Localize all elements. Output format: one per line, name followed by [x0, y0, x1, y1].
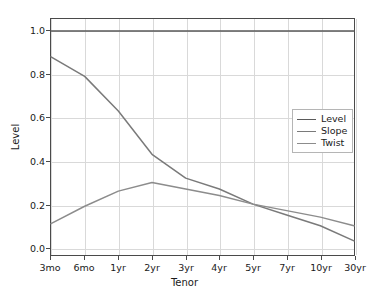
legend-swatch-level [297, 119, 316, 120]
y-tick-mark [46, 248, 50, 249]
x-tick-mark [84, 256, 85, 260]
x-tick-label: 3mo [39, 262, 60, 273]
x-tick-label: 5yr [245, 262, 261, 273]
legend-item-twist[interactable]: Twist [297, 137, 347, 149]
x-tick-mark [287, 256, 288, 260]
series-line-twist [51, 182, 354, 225]
legend-swatch-slope [297, 131, 316, 132]
x-tick-mark [118, 256, 119, 260]
x-tick-mark [186, 256, 187, 260]
y-tick-label: 0.4 [30, 156, 45, 167]
x-tick-mark [253, 256, 254, 260]
y-tick-label: 0.8 [30, 69, 45, 80]
y-tick-mark [46, 205, 50, 206]
y-tick-label: 1.0 [30, 25, 45, 36]
legend-swatch-twist [297, 143, 316, 144]
chart-figure: 0.00.20.40.60.81.0 3mo6mo1yr2yr3yr4yr5yr… [0, 0, 369, 298]
x-tick-label: 1yr [110, 262, 126, 273]
x-tick-mark [50, 256, 51, 260]
y-tick-mark [46, 161, 50, 162]
gridline-vertical [356, 19, 357, 255]
x-tick-mark [152, 256, 153, 260]
x-tick-label: 2yr [144, 262, 160, 273]
x-tick-label: 3yr [178, 262, 194, 273]
x-tick-label: 7yr [279, 262, 295, 273]
x-tick-mark [321, 256, 322, 260]
y-tick-label: 0.6 [30, 112, 45, 123]
x-axis-label: Tenor [0, 277, 369, 288]
x-tick-mark [355, 256, 356, 260]
y-tick-label: 0.0 [30, 243, 45, 254]
legend-label-twist: Twist [321, 137, 344, 149]
legend-item-slope[interactable]: Slope [297, 125, 347, 137]
y-axis-label: Level [10, 124, 21, 150]
legend-label-level: Level [321, 113, 346, 125]
x-tick-mark [219, 256, 220, 260]
legend-item-level[interactable]: Level [297, 113, 347, 125]
y-tick-label: 0.2 [30, 200, 45, 211]
x-tick-label: 10yr [310, 262, 332, 273]
legend-label-slope: Slope [321, 125, 347, 137]
chart-legend: Level Slope Twist [292, 109, 353, 153]
y-tick-mark [46, 117, 50, 118]
y-tick-mark [46, 30, 50, 31]
y-tick-mark [46, 74, 50, 75]
x-tick-label: 6mo [73, 262, 94, 273]
x-tick-label: 4yr [211, 262, 227, 273]
x-tick-label: 30yr [344, 262, 366, 273]
